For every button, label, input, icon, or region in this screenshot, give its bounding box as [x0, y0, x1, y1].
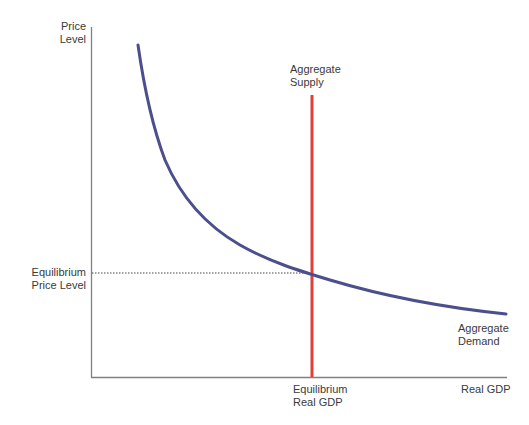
ad-label-line1: Aggregate	[458, 322, 509, 335]
eq-gdp-line2: Real GDP	[293, 396, 347, 409]
aggregate-supply-label: Aggregate Supply	[290, 63, 341, 89]
x-axis-label-text: Real GDP	[461, 383, 511, 396]
x-axis-label: Real GDP	[461, 383, 511, 396]
aggregate-demand-label: Aggregate Demand	[458, 322, 509, 348]
eq-gdp-line1: Equilibrium	[293, 383, 347, 396]
y-axis-label: Price Level	[30, 20, 86, 46]
as-label-line1: Aggregate	[290, 63, 341, 76]
eq-price-line2: Price Level	[0, 279, 86, 292]
y-axis-label-line1: Price	[30, 20, 86, 33]
chart-canvas	[0, 0, 529, 425]
as-label-line2: Supply	[290, 76, 341, 89]
y-axis-label-line2: Level	[30, 33, 86, 46]
eq-price-line1: Equilibrium	[0, 266, 86, 279]
equilibrium-price-label: Equilibrium Price Level	[0, 266, 86, 292]
equilibrium-gdp-label: Equilibrium Real GDP	[293, 383, 347, 409]
ad-label-line2: Demand	[458, 335, 509, 348]
